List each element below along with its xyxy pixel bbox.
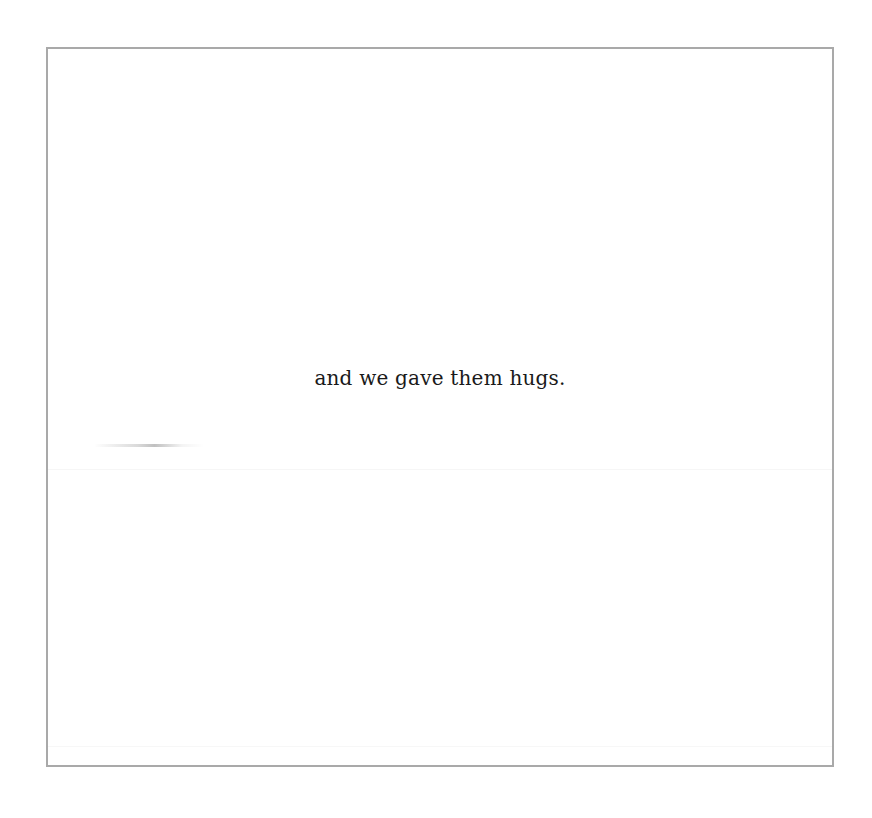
book-page: and we gave them hugs. [46, 47, 834, 767]
story-caption: and we gave them hugs. [48, 366, 832, 390]
scan-smudge [94, 444, 204, 447]
page-fold-line [48, 469, 832, 470]
page-crease-line [48, 746, 832, 747]
